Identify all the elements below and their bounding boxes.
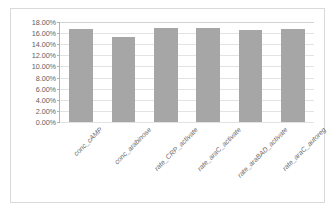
bar[interactable] xyxy=(196,28,220,122)
x-axis-category-label: rate_araC_autoreg xyxy=(281,126,327,172)
bar-slot xyxy=(187,22,229,122)
x-label-slot: rate_araBAD_activate xyxy=(229,124,272,202)
bar-slot xyxy=(229,22,271,122)
y-axis-tick-label: 4.00% xyxy=(36,95,56,104)
y-axis-tick-label: 16.00% xyxy=(32,29,56,38)
gridline xyxy=(60,122,314,123)
y-axis-tick-label: 18.00% xyxy=(32,18,56,27)
x-axis-category-label: conc_cAMP xyxy=(73,126,104,157)
bar[interactable] xyxy=(69,29,93,122)
bar[interactable] xyxy=(154,28,178,122)
x-label-slot: conc_cAMP xyxy=(59,124,102,202)
bar[interactable] xyxy=(281,29,305,122)
y-axis-tick-label: 10.00% xyxy=(32,62,56,71)
x-label-slot: rate_araC_autoreg xyxy=(272,124,315,202)
y-axis-tick-label: 12.00% xyxy=(32,51,56,60)
plot-area: 0.00%2.00%4.00%6.00%8.00%10.00%12.00%14.… xyxy=(59,22,314,123)
y-axis-tick-label: 2.00% xyxy=(36,106,56,115)
bar-slot xyxy=(272,22,314,122)
x-label-slot: rate_araC_activate xyxy=(187,124,230,202)
bar-series xyxy=(60,22,314,122)
y-axis-tick-label: 6.00% xyxy=(36,84,56,93)
bar[interactable] xyxy=(112,37,136,122)
bar-slot xyxy=(102,22,144,122)
y-axis-tick-label: 14.00% xyxy=(32,40,56,49)
x-axis-category-labels: conc_cAMPconc_arabinoserate_CRP_activate… xyxy=(59,124,314,202)
y-axis-tick-label: 0.00% xyxy=(36,118,56,127)
bar[interactable] xyxy=(239,30,263,122)
bar-slot xyxy=(145,22,187,122)
y-axis-tick-mark xyxy=(57,122,60,123)
y-axis-tick-label: 8.00% xyxy=(36,73,56,82)
x-label-slot: rate_CRP_activate xyxy=(144,124,187,202)
x-label-slot: conc_arabinose xyxy=(102,124,145,202)
bar-slot xyxy=(60,22,102,122)
chart-container: 0.00%2.00%4.00%6.00%8.00%10.00%12.00%14.… xyxy=(10,8,325,203)
